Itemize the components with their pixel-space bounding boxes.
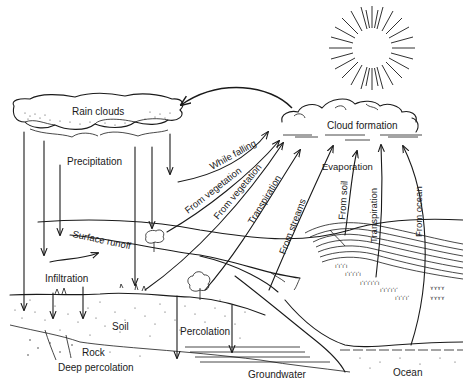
label-deep-percolation: Deep percolation — [58, 362, 134, 373]
water-cycle-diagram: Rain clouds Cloud formation Precipitatio… — [0, 0, 463, 383]
label-groundwater: Groundwater — [248, 369, 306, 380]
tree-icon — [188, 272, 210, 300]
cloud-transport-arrow — [181, 88, 292, 108]
ground-surface — [10, 284, 265, 315]
svg-text:ıʼıʼıʼıʼıʼ: ıʼıʼıʼıʼıʼ — [380, 286, 398, 293]
label-soil: Soil — [112, 321, 129, 332]
hill-contours — [305, 223, 463, 279]
svg-text:ıʼıʼıʼıʼıʼı: ıʼıʼıʼıʼıʼı — [360, 279, 380, 286]
svg-text:ʏʏʏʏ: ʏʏʏʏ — [430, 294, 445, 301]
svg-text:ʏʏʏʏ: ʏʏʏʏ — [430, 284, 445, 291]
label-rain-clouds: Rain clouds — [72, 106, 124, 117]
percolation-arrows: Percolation — [177, 296, 232, 358]
groundwater: Groundwater — [185, 347, 330, 380]
svg-text:ıʼıʼıʼıʼ: ıʼıʼıʼıʼ — [395, 294, 409, 301]
label-from-ocean: From ocean — [413, 186, 424, 237]
sun-icon — [329, 6, 415, 90]
label-infiltration: Infiltration — [45, 273, 88, 284]
label-rock: Rock — [82, 347, 106, 358]
infiltration-arrows: Infiltration — [45, 273, 88, 318]
label-surface-runoff: Surface runoff — [72, 228, 133, 251]
label-from-streams: From streams — [277, 197, 308, 256]
label-precipitation: Precipitation — [67, 156, 122, 167]
evaporation-arrows-right: Evaporation From streams From soil Trans… — [269, 145, 425, 345]
label-percolation: Percolation — [180, 326, 230, 337]
cloud-formation: Cloud formation — [282, 99, 422, 140]
label-evaporation: Evaporation — [322, 161, 373, 172]
label-transpiration-2: Transpiration — [368, 188, 379, 243]
label-cloud-formation: Cloud formation — [327, 120, 398, 131]
rain-clouds: Rain clouds — [13, 94, 183, 138]
label-ocean: Ocean — [393, 367, 422, 378]
svg-text:ıʼıʼıʼıʼı: ıʼıʼıʼıʼı — [345, 270, 361, 277]
ocean: Ocean — [340, 350, 463, 378]
evaporation-arrows-left: While falling From vegetation From veget… — [145, 132, 300, 290]
svg-text:ıʼıʼıʼı: ıʼıʼıʼı — [335, 262, 348, 269]
